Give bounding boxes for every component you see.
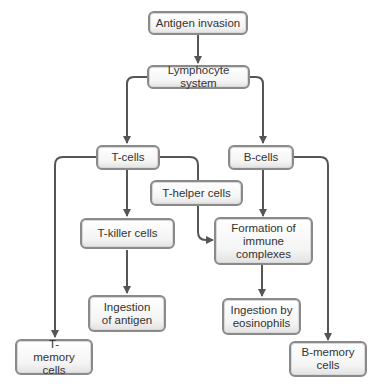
- node-ingestion-by-eosinophils: Ingestion by eosinophils: [222, 298, 301, 335]
- node-lymphocyte-system: Lymphocyte system: [147, 65, 250, 89]
- node-t-killer-cells: T-killer cells: [80, 218, 175, 249]
- node-t-helper-cells: T-helper cells: [150, 180, 243, 206]
- node-b-cells: B-cells: [228, 145, 294, 170]
- node-antigen-invasion: Antigen invasion: [148, 11, 248, 35]
- node-t-cells: T-cells: [96, 145, 160, 170]
- node-ingestion-of-antigen: Ingestion of antigen: [88, 295, 166, 332]
- node-b-memory-cells: B-memory cells: [289, 341, 367, 377]
- node-t-memory-cells: T-memory cells: [15, 339, 93, 375]
- node-formation-immune-complexes: Formation of immune complexes: [214, 217, 313, 265]
